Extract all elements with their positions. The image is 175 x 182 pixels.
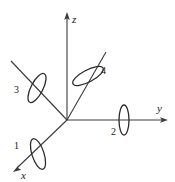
element-label-1: 1: [14, 141, 19, 151]
element-label-2: 2: [111, 127, 116, 137]
element-label-4: 4: [101, 66, 106, 76]
ray-upper-right-line: [67, 52, 106, 120]
element-label-3: 3: [14, 85, 19, 95]
y-axis-label: y: [157, 103, 162, 114]
y-axis: [67, 117, 168, 123]
figure-canvas: z y x 1 2 3 4: [0, 0, 175, 182]
z-axis: [64, 12, 70, 120]
x-axis-label: x: [21, 170, 26, 181]
z-axis-label: z: [72, 14, 76, 25]
x-axis-line: [18, 120, 67, 167]
ray-upper-left-line: [11, 61, 67, 120]
diagram-svg: [0, 0, 175, 182]
x-axis: [13, 120, 67, 172]
element-ellipse-1[interactable]: [27, 137, 48, 171]
